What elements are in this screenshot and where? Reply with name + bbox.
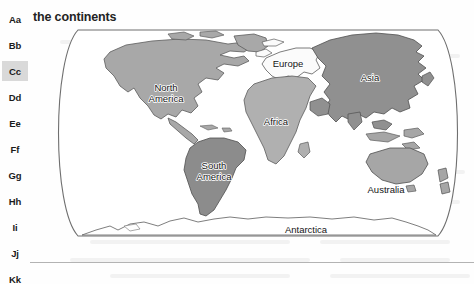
index-item-a[interactable]: Aa [2,9,28,29]
label-north-america-line1: North [154,82,177,93]
label-asia: Asia [361,72,380,83]
page-canvas: the continents Aa Bb Cc Dd Ee Ff Gg Hh I… [0,0,474,284]
index-item-g[interactable]: Gg [2,165,28,185]
index-item-h[interactable]: Hh [2,191,28,211]
label-europe: Europe [273,58,304,69]
index-item-k[interactable]: Kk [2,269,28,284]
index-item-b[interactable]: Bb [2,35,28,55]
index-item-i[interactable]: Ii [2,217,28,237]
index-item-c[interactable]: Cc [2,61,28,81]
label-north-america-line2: America [149,93,185,104]
label-africa: Africa [264,116,289,127]
index-item-f[interactable]: Ff [2,139,28,159]
alphabet-index: Aa Bb Cc Dd Ee Ff Gg Hh Ii Jj Kk [0,0,30,284]
index-item-e[interactable]: Ee [2,113,28,133]
bottom-divider [30,262,474,263]
label-south-america-line2: America [197,171,233,182]
index-item-d[interactable]: Dd [2,87,28,107]
label-antarctica: Antarctica [285,224,328,235]
label-south-america-line1: South [202,160,227,171]
world-map: North America South America Europe Afric… [48,18,468,250]
page-title: the continents [33,10,116,24]
label-australia: Australia [368,184,406,195]
index-item-j[interactable]: Jj [2,243,28,263]
